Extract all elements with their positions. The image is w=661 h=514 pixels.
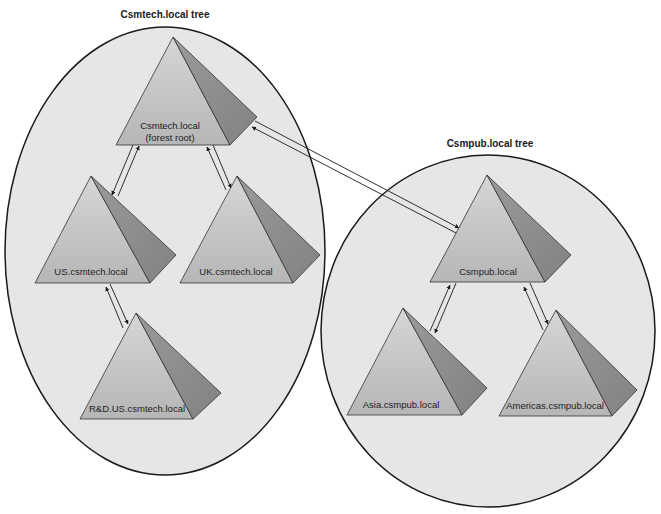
node-label-us: US.csmtech.local xyxy=(54,266,127,278)
tree-title-csmtech: Csmtech.local tree xyxy=(121,9,210,20)
node-label-csmpub: Csmpub.local xyxy=(459,266,517,278)
tree-title-csmpub: Csmpub.local tree xyxy=(447,138,534,149)
forest-diagram xyxy=(0,0,661,514)
node-label-uk: UK.csmtech.local xyxy=(199,266,272,278)
node-sublabel: (forest root) xyxy=(140,132,200,144)
node-label-americas: Americas.csmpub.local xyxy=(506,400,604,412)
node-label-rd: R&D.US.csmtech.local xyxy=(89,403,185,415)
node-label-asia: Asia.csmpub.local xyxy=(363,399,440,411)
node-name: Csmtech.local xyxy=(140,120,200,132)
node-label-csmtech: Csmtech.local (forest root) xyxy=(140,120,200,144)
